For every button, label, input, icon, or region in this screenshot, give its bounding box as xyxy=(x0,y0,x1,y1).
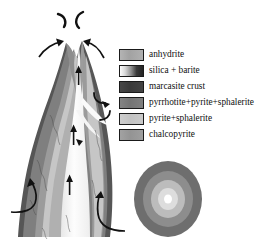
legend-item-pyrite-sphalerite: pyrite+sphalerite xyxy=(119,111,271,127)
legend-label-silica-barite: silica + barite xyxy=(149,66,200,75)
figure-root: anhydrite silica + barite marcasite crus… xyxy=(0,0,272,245)
chimney-cross-section xyxy=(134,161,202,237)
swatch-silica-barite xyxy=(119,65,144,77)
branch-arrow-upper xyxy=(102,101,110,108)
legend: anhydrite silica + barite marcasite crus… xyxy=(119,47,271,143)
legend-item-anhydrite: anhydrite xyxy=(119,47,271,63)
legend-label-pyrrhotite-pyrite-sphalerite: pyrrhotite+pyrite+sphalerite xyxy=(149,98,254,107)
legend-label-pyrite-sphalerite: pyrite+sphalerite xyxy=(149,114,212,123)
legend-item-chalcopyrite: chalcopyrite xyxy=(119,127,271,143)
swatch-marcasite-crust xyxy=(119,81,144,93)
plume-mark-right xyxy=(76,12,83,28)
legend-label-marcasite-crust: marcasite crust xyxy=(149,82,205,91)
swatch-chalcopyrite xyxy=(119,129,144,141)
plume-marks xyxy=(58,12,83,28)
vent-arrow-left xyxy=(39,39,64,58)
legend-label-anhydrite: anhydrite xyxy=(149,50,184,59)
ring-core xyxy=(164,195,172,204)
swatch-pyrrhotite-pyrite-sphalerite xyxy=(119,97,144,109)
legend-item-silica-barite: silica + barite xyxy=(119,63,271,79)
swatch-anhydrite xyxy=(119,49,144,61)
legend-item-marcasite-crust: marcasite crust xyxy=(119,79,271,95)
legend-label-chalcopyrite: chalcopyrite xyxy=(149,130,195,139)
legend-item-pyrrhotite-pyrite-sphalerite: pyrrhotite+pyrite+sphalerite xyxy=(119,95,271,111)
plume-mark-left xyxy=(58,14,65,27)
swatch-pyrite-sphalerite xyxy=(119,113,144,125)
